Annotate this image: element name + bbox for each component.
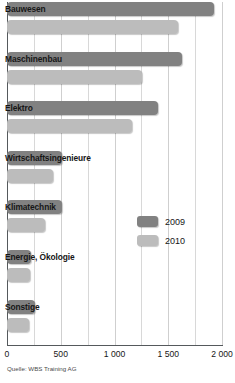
- bar-2010: [7, 169, 53, 183]
- bar-2010: [7, 119, 132, 133]
- gridline: [222, 2, 223, 345]
- x-tick-label: 1 000: [104, 349, 126, 359]
- bar-2009: [7, 250, 31, 264]
- bar-2009: [7, 151, 62, 165]
- bar-2010: [7, 318, 29, 332]
- x-tick-label: 1 500: [157, 349, 179, 359]
- bar-2010: [7, 218, 45, 232]
- legend-label: 2009: [165, 217, 185, 227]
- chart-legend: 20092010: [137, 214, 185, 252]
- bar-2010: [7, 70, 142, 84]
- legend-item-2009: 2009: [137, 214, 185, 229]
- legend-item-2010: 2010: [137, 233, 185, 248]
- x-tick-label: 0: [5, 349, 10, 359]
- legend-swatch: [137, 216, 158, 227]
- source-note: Quelle: WBS Training AG: [7, 365, 76, 372]
- bar-2009: [7, 52, 182, 66]
- bar-chart: BauwesenMaschinenbauElektroWirtschaftsin…: [0, 0, 235, 383]
- x-tick-label: 500: [54, 349, 68, 359]
- bar-2010: [7, 268, 30, 282]
- gridline: [195, 2, 196, 345]
- bar-2009: [7, 2, 214, 16]
- bar-2009: [7, 101, 158, 115]
- legend-label: 2010: [165, 236, 185, 246]
- x-tick-label: 2 000: [211, 349, 233, 359]
- bar-2009: [7, 200, 62, 214]
- bar-2010: [7, 20, 178, 34]
- x-axis-line: [7, 345, 223, 346]
- bar-2009: [7, 300, 35, 314]
- legend-swatch: [137, 235, 158, 246]
